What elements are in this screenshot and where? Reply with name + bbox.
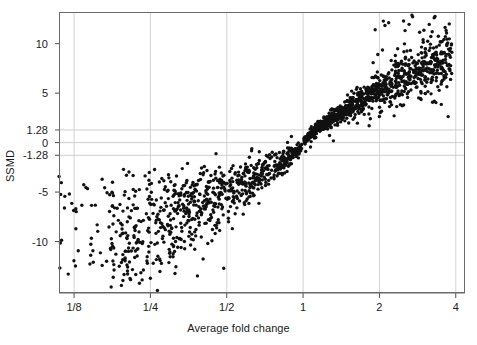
plot-border [60, 13, 465, 293]
x-tick-label: 1/8 [66, 301, 81, 313]
y-tick-label: 0 [42, 137, 48, 149]
x-tick-label: 1/4 [143, 301, 158, 313]
y-tick-label: 5 [42, 87, 48, 99]
x-tick-label: 4 [453, 301, 459, 313]
x-tick-label: 1 [300, 301, 306, 313]
y-tick-label: -10 [32, 236, 48, 248]
data-points [57, 13, 453, 292]
y-tick-label: 1.28 [27, 124, 48, 136]
grid-lines [59, 12, 465, 293]
y-tick-label: -5 [38, 186, 48, 198]
plot-canvas [0, 0, 477, 345]
scatter-plot-figure: 1051.280-1.28-5-10 1/81/41/2124 Average … [0, 0, 477, 345]
y-tick-label: -1.28 [23, 149, 48, 161]
y-tick-label: 10 [36, 38, 48, 50]
y-axis-title: SSMD [4, 126, 16, 206]
x-tick-label: 2 [376, 301, 382, 313]
x-axis-tick-labels: 1/81/41/2124 [0, 301, 477, 321]
x-tick-label: 1/2 [219, 301, 234, 313]
x-axis-title: Average fold change [0, 322, 477, 334]
